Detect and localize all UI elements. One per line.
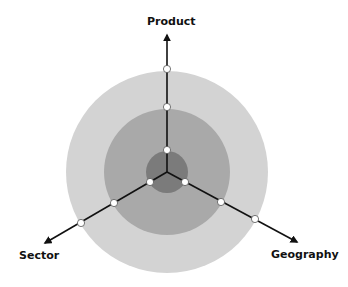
sector-dot-middle <box>110 199 117 206</box>
geography-dot-outer <box>251 215 258 222</box>
geography-label: Geography <box>271 248 339 261</box>
product-label: Product <box>147 15 196 28</box>
concentric-ring-diagram <box>0 0 348 287</box>
geography-dot-inner <box>181 178 188 185</box>
product-dot-inner <box>163 146 170 153</box>
sector-dot-inner <box>146 178 153 185</box>
sector-dot-outer <box>77 219 84 226</box>
product-dot-outer <box>163 65 170 72</box>
sector-label: Sector <box>19 249 59 262</box>
product-dot-middle <box>163 103 170 110</box>
geography-dot-middle <box>217 198 224 205</box>
